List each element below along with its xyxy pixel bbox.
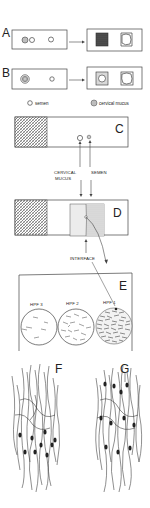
coverslip-mixed xyxy=(96,33,108,46)
slide-b-after xyxy=(87,67,142,89)
slide-a-before xyxy=(12,30,67,49)
semen-drop xyxy=(30,38,35,43)
panel-label-d: D xyxy=(113,206,122,220)
panel-c: C xyxy=(15,117,128,167)
hpf-3-field: HPF 3 xyxy=(21,302,57,345)
panel-label-a: A xyxy=(2,26,10,40)
panel-label-b: B xyxy=(2,66,10,80)
panel-label-e: E xyxy=(119,279,127,293)
label-cervical: CERVICAL xyxy=(54,170,77,175)
legend-cervical-mucus: cervical mucus xyxy=(99,101,130,106)
panel-g: G xyxy=(96,362,142,492)
panel-d: D xyxy=(15,200,128,264)
panel-f: F xyxy=(12,362,62,492)
hpf-1-field: HPF 1 xyxy=(96,300,132,344)
hpf-2-label: HPF 2 xyxy=(66,301,79,306)
frosted-end xyxy=(15,117,47,147)
label-interface: INTERFACE xyxy=(70,256,95,261)
semen-region xyxy=(86,204,104,236)
mucus-drop xyxy=(22,37,28,43)
panel-label-f: F xyxy=(55,362,62,376)
interface-annotation: INTERFACE xyxy=(70,239,115,306)
semen-drop xyxy=(87,135,91,139)
slide-b-before xyxy=(12,69,67,89)
slide-a-after xyxy=(87,29,142,51)
mucus-legend-icon xyxy=(91,100,97,106)
panel-label-g: G xyxy=(120,362,129,376)
legend-semen: semen xyxy=(35,101,49,106)
semen-legend-icon xyxy=(28,101,33,106)
mucus-drop xyxy=(77,135,82,140)
legend: semen cervical mucus xyxy=(28,100,130,106)
sperm-heads-f xyxy=(18,429,56,457)
c-d-annotations: CERVICAL MUCUS SEMEN xyxy=(54,170,107,197)
hpf-3-label: HPF 3 xyxy=(30,302,43,307)
panel-b: B xyxy=(2,66,142,89)
panel-a: A xyxy=(2,26,142,51)
panel-label-c: C xyxy=(115,122,124,136)
frosted-end xyxy=(15,200,47,235)
hpf-2-field: HPF 2 xyxy=(58,301,94,345)
label-mucus: MUCUS xyxy=(55,176,71,181)
label-semen: SEMEN xyxy=(91,170,107,175)
mucus-fibers-f xyxy=(12,364,60,492)
semen-drop xyxy=(49,37,54,42)
panel-e: E HPF 3 HPF 2 xyxy=(19,273,132,351)
mucus-fibers-g xyxy=(96,366,142,492)
sperm-mucus-penetration-diagram: A B semen cervical mucus xyxy=(0,0,150,508)
hpf-1-label: HPF 1 xyxy=(103,300,116,305)
